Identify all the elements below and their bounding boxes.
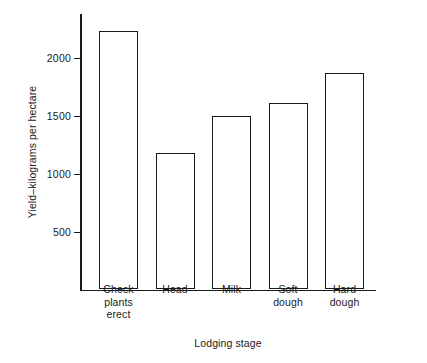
y-axis-tick-mark bbox=[74, 174, 81, 175]
bar bbox=[269, 103, 308, 289]
x-axis-category-label: Head bbox=[143, 283, 207, 296]
x-axis-category-label: Milk bbox=[200, 283, 264, 296]
x-axis-category-label: Check plants erect bbox=[87, 283, 151, 321]
bar-chart-figure: Yield–kilograms per hectare 500100015002… bbox=[0, 0, 427, 363]
y-axis-tick-label: 2000 bbox=[47, 52, 71, 64]
bar bbox=[156, 153, 195, 290]
y-axis-tick-mark bbox=[74, 58, 81, 59]
y-axis-tick-label: 1500 bbox=[47, 110, 71, 122]
bar bbox=[212, 116, 251, 289]
y-axis-title: Yield–kilograms per hectare bbox=[22, 12, 42, 292]
plot-area: 500100015002000 bbox=[80, 14, 376, 291]
y-axis-tick-label: 500 bbox=[53, 226, 71, 238]
y-axis-tick-label: 1000 bbox=[47, 168, 71, 180]
x-axis-category-label: Hard dough bbox=[313, 283, 377, 308]
y-axis-tick-mark bbox=[74, 232, 81, 233]
bar bbox=[325, 73, 364, 289]
x-axis-title: Lodging stage bbox=[80, 337, 376, 349]
y-axis-tick-mark bbox=[74, 116, 81, 117]
bar bbox=[99, 31, 138, 289]
y-axis-line bbox=[80, 14, 82, 291]
x-axis-category-label: Soft dough bbox=[256, 283, 320, 308]
